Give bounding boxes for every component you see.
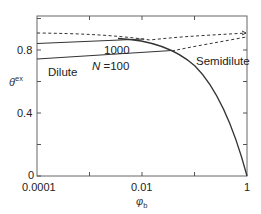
annotation-1000: 1000 (104, 44, 130, 57)
annotation-dilute: Dilute (48, 66, 77, 79)
x-tick-label-0.0001: 0.0001 (22, 181, 56, 193)
y-tick-label-0.4: 0.4 (17, 107, 32, 119)
annotation-semidilute: Semidilute (196, 55, 250, 68)
x-axis-label-sub: b (143, 201, 147, 210)
x-axis-ticks (90, 16, 195, 176)
x-tick-label-0.01: 0.01 (131, 181, 152, 193)
annotation-n100: N =100 (92, 60, 129, 73)
annotation-n-value: =100 (100, 60, 129, 72)
plot-frame (37, 16, 247, 176)
y-axis-label-sup: ex (15, 74, 23, 83)
x-tick-label-1: 1 (244, 181, 250, 193)
y-tick-label-0.8: 0.8 (17, 44, 32, 56)
y-axis-label: θex (9, 74, 23, 88)
y-tick-label-0: 0 (28, 169, 34, 181)
x-axis-label: φb (136, 195, 147, 210)
series-n100-dashed (172, 37, 246, 51)
